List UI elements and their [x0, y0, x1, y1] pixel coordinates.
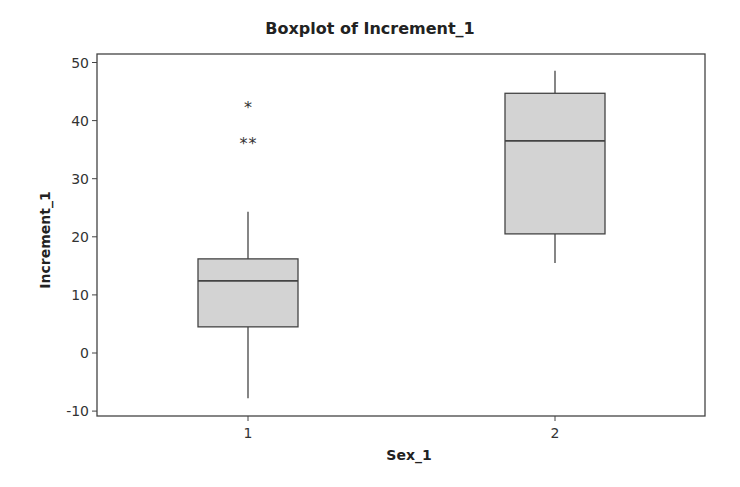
outlier-asterisk-icon: *: [244, 98, 252, 117]
y-tick-label: 40: [71, 113, 89, 129]
box-iqr: [198, 259, 298, 327]
y-tick-label: -10: [66, 403, 89, 419]
outlier-asterisk-icon: *: [249, 134, 257, 153]
boxplot-area: -100102030405012***: [0, 0, 740, 487]
y-tick-label: 50: [71, 55, 89, 71]
box-iqr: [505, 93, 605, 234]
x-tick-label: 1: [244, 425, 253, 441]
x-tick-label: 2: [551, 425, 560, 441]
y-tick-label: 30: [71, 171, 89, 187]
outlier-asterisk-icon: *: [240, 134, 248, 153]
plot-frame: [97, 54, 705, 416]
y-tick-label: 0: [80, 345, 89, 361]
y-tick-label: 10: [71, 287, 89, 303]
y-tick-label: 20: [71, 229, 89, 245]
